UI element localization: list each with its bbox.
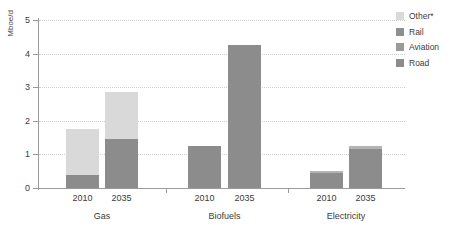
y-axis-tick-label: 0 <box>25 183 30 193</box>
gridline <box>39 121 405 122</box>
group-separator <box>288 188 289 193</box>
gridline <box>39 87 405 88</box>
bar <box>310 171 343 188</box>
bar <box>66 129 99 188</box>
gridline <box>39 54 405 55</box>
bar-segment-road <box>105 139 138 188</box>
bar <box>105 92 138 188</box>
x-axis-line <box>38 188 405 189</box>
bar-segment-road <box>66 175 99 188</box>
x-axis-label: 2010 <box>316 193 336 203</box>
y-axis-tick <box>33 121 38 122</box>
legend-item[interactable]: Other* <box>396 12 439 21</box>
chart-container: Mboe/d 012345 20102035Gas20102035Biofuel… <box>0 0 465 233</box>
bar-segment-road <box>228 45 261 188</box>
gridline <box>39 20 405 21</box>
legend: Other*RailAviationRoad <box>396 12 439 67</box>
legend-swatch-icon <box>396 43 404 51</box>
group-separator <box>166 188 167 193</box>
y-axis-tick <box>33 20 38 21</box>
bar-segment-road <box>349 149 382 188</box>
bar-segment-other <box>66 129 99 174</box>
y-axis-tick-label: 3 <box>25 82 30 92</box>
y-axis-tick <box>33 154 38 155</box>
bar <box>228 45 261 188</box>
legend-swatch-icon <box>396 28 404 36</box>
legend-swatch-icon <box>396 59 404 67</box>
legend-swatch-icon <box>396 12 404 20</box>
y-axis-tick-label: 1 <box>25 149 30 159</box>
legend-item[interactable]: Road <box>396 59 439 68</box>
y-axis-tick <box>33 188 38 189</box>
legend-label: Rail <box>409 28 424 37</box>
x-axis-group-label: Electricity <box>327 211 366 221</box>
x-axis-label: 2010 <box>194 193 214 203</box>
legend-item[interactable]: Aviation <box>396 43 439 52</box>
x-axis-label: 2035 <box>355 193 375 203</box>
x-axis-label: 2035 <box>111 193 131 203</box>
bar-segment-other <box>105 92 138 139</box>
y-axis-tick-label: 2 <box>25 116 30 126</box>
legend-label: Aviation <box>409 43 439 52</box>
y-axis-tick <box>33 54 38 55</box>
bar <box>188 146 221 188</box>
x-axis-group-label: Gas <box>94 211 111 221</box>
x-axis-label: 2035 <box>234 193 254 203</box>
y-axis-tick <box>33 87 38 88</box>
legend-item[interactable]: Rail <box>396 28 439 37</box>
x-axis-label: 2010 <box>72 193 92 203</box>
bar-segment-road <box>310 173 343 188</box>
legend-label: Other* <box>409 12 434 21</box>
y-axis-tick-label: 4 <box>25 49 30 59</box>
y-axis-line <box>38 18 39 190</box>
bar-segment-road <box>188 146 221 188</box>
y-axis-tick-label: 5 <box>25 15 30 25</box>
x-axis-group-label: Biofuels <box>208 211 240 221</box>
y-axis-title: Mboe/d <box>6 10 15 37</box>
plot-area: 012345 20102035Gas20102035Biofuels201020… <box>38 20 405 188</box>
bar <box>349 146 382 188</box>
legend-label: Road <box>409 59 429 68</box>
